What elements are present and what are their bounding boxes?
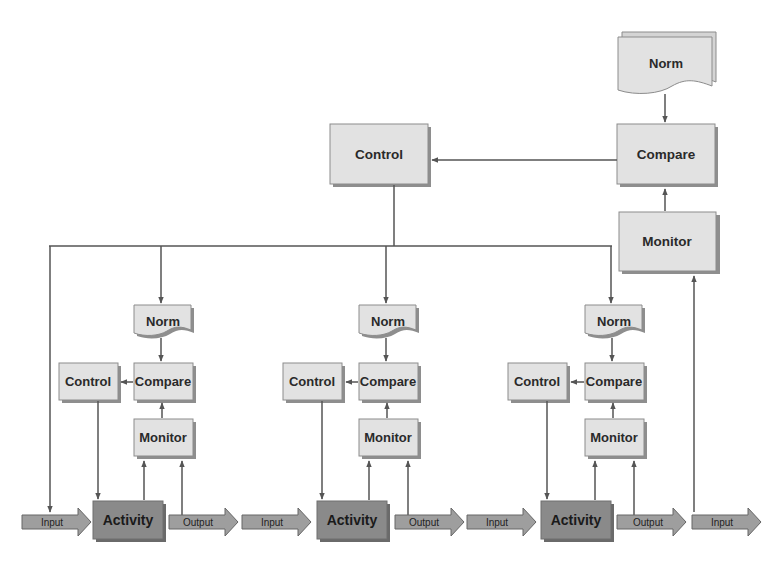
final-input-label: Input [711,517,733,528]
unit3-input-label: Input [486,517,508,528]
top-compare-box: Compare [617,124,718,187]
top-control-label: Control [355,147,403,162]
unit3-output-arrow: Output [617,508,686,536]
unit1-control-box: Control [59,363,121,403]
top-monitor-box: Monitor [619,212,720,274]
unit1-input-label: Input [41,517,63,528]
unit1-monitor-label: Monitor [139,430,187,445]
unit2-input-label: Input [261,517,283,528]
unit1-activity-label: Activity [103,512,154,528]
unit3-control-label: Control [514,374,560,389]
final-input-arrow: Input [692,508,761,536]
unit1-control-label: Control [65,374,111,389]
unit3-input-arrow: Input [467,508,536,536]
unit2-compare-label: Compare [360,374,416,389]
control-loop-diagram: Norm Compare Monitor Control Norm [0,0,784,563]
top-control-box: Control [330,124,431,187]
unit2-input-arrow: Input [242,508,311,536]
unit3-compare-label: Compare [586,374,642,389]
top-norm-document: Norm [618,32,716,93]
top-monitor-label: Monitor [642,234,692,249]
unit1-output-arrow: Output [169,508,238,536]
unit2-activity-label: Activity [327,512,378,528]
unit3-compare-box: Compare [585,363,647,403]
unit-1: Norm Compare Control Monitor Activi [22,305,238,542]
unit1-activity-box: Activity [93,501,166,542]
unit1-norm-document: Norm [134,305,194,338]
top-norm-label: Norm [649,56,683,71]
unit2-output-label: Output [409,517,439,528]
unit1-compare-box: Compare [134,363,196,403]
unit1-compare-label: Compare [135,374,191,389]
unit2-monitor-box: Monitor [359,419,421,459]
top-compare-label: Compare [637,147,696,162]
unit2-norm-document: Norm [359,305,419,338]
unit1-output-label: Output [183,517,213,528]
unit3-activity-label: Activity [551,512,602,528]
unit1-monitor-box: Monitor [134,419,196,459]
unit2-control-label: Control [289,374,335,389]
unit2-control-box: Control [283,363,345,403]
unit3-output-label: Output [633,517,663,528]
unit1-input-arrow: Input [22,508,91,536]
unit2-norm-label: Norm [371,314,405,329]
unit1-norm-label: Norm [146,314,180,329]
unit-2: Norm Compare Control Monitor Activity [242,305,464,542]
unit3-monitor-box: Monitor [585,419,647,459]
unit2-monitor-label: Monitor [364,430,412,445]
unit3-monitor-label: Monitor [590,430,638,445]
unit3-control-box: Control [508,363,570,403]
unit2-compare-box: Compare [359,363,421,403]
unit-3: Norm Compare Control Monitor Activity [467,305,686,542]
unit3-norm-label: Norm [597,314,631,329]
unit3-norm-document: Norm [585,305,645,338]
unit2-output-arrow: Output [395,508,464,536]
unit2-activity-box: Activity [317,501,390,542]
unit3-activity-box: Activity [541,501,614,542]
